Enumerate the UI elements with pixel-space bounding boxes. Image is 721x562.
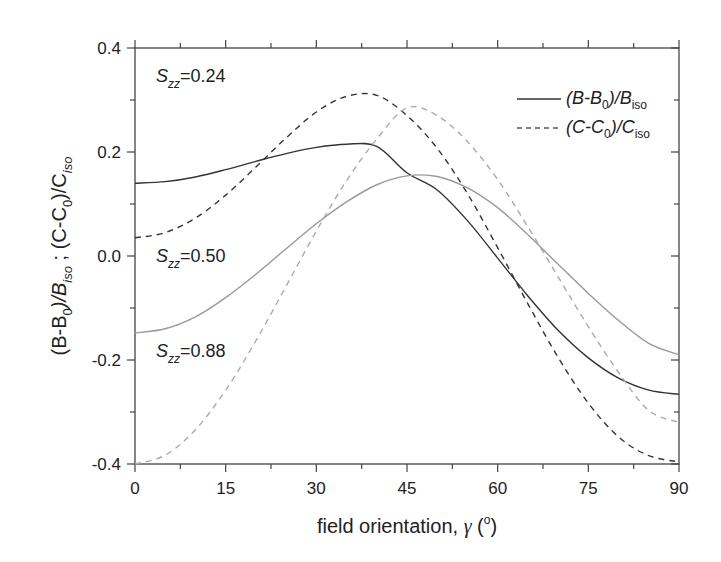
legend: (B-B0)/Biso (C-C0)/Ciso — [517, 88, 650, 141]
legend-label-b: (B-B0)/Biso — [566, 88, 647, 112]
y-tick-label: 0.4 — [97, 39, 121, 58]
y-tick-labels: -0.4-0.20.00.20.4 — [92, 39, 121, 474]
annotation-szz-024: Szz=0.24 — [156, 66, 226, 91]
chart: 0153045607590 -0.4-0.20.00.20.4 Szz=0.24… — [0, 0, 721, 562]
x-tick-label: 60 — [488, 479, 507, 498]
y-tick-label: 0.2 — [97, 143, 121, 162]
y-tick-label: -0.2 — [92, 351, 121, 370]
annotation-szz-088: Szz=0.88 — [156, 341, 226, 366]
series-curve — [135, 107, 679, 464]
x-tick-label: 0 — [130, 479, 139, 498]
x-tick-label: 75 — [579, 479, 598, 498]
legend-label-c: (C-C0)/Ciso — [566, 117, 650, 141]
x-tick-label: 30 — [307, 479, 326, 498]
x-tick-label: 90 — [670, 479, 689, 498]
x-tick-labels: 0153045607590 — [130, 479, 688, 498]
y-tick-label: 0.0 — [97, 247, 121, 266]
series-curve — [135, 94, 679, 462]
annotation-szz-050: Szz=0.50 — [156, 246, 226, 271]
x-tick-label: 15 — [216, 479, 235, 498]
y-tick-label: -0.4 — [92, 455, 121, 474]
data-curves — [135, 94, 679, 464]
x-axis-label: field orientation, γ (o) — [317, 513, 497, 538]
x-tick-label: 45 — [398, 479, 417, 498]
y-axis-label: (B-B0)/Biso ; (C-C0)/Ciso — [48, 157, 75, 356]
